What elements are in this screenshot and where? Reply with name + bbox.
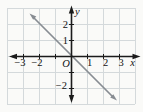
x-tick-label-neg2: −2	[31, 57, 42, 68]
origin-label: O	[62, 58, 70, 69]
y-tick-label-neg2: −2	[56, 80, 67, 91]
x-tick-label-neg3: −3	[14, 57, 25, 68]
line-graph-svg: −3 −2 O 1 2 3 x 2 1 −2 y	[0, 0, 143, 112]
y-axis-label: y	[74, 6, 80, 17]
x-tick-label-2: 2	[103, 57, 108, 68]
y-tick-label-1: 1	[63, 35, 68, 46]
x-tick-label-3: 3	[118, 57, 123, 68]
y-tick-label-2: 2	[63, 19, 68, 30]
x-tick-label-1: 1	[87, 57, 92, 68]
coordinate-plane-figure: −3 −2 O 1 2 3 x 2 1 −2 y	[0, 0, 143, 112]
x-axis-label: x	[129, 57, 135, 68]
